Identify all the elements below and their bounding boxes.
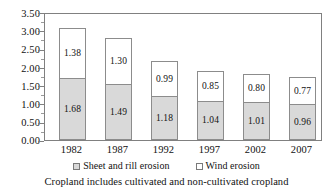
- bar-1992[interactable]: 0.99 1.18: [151, 61, 178, 140]
- erosion-stacked-bar-chart: 3.50 3.00 2.50 2.00 1.50 1.00 0.50 0.00 …: [0, 0, 333, 194]
- bar-value-label: 1.49: [110, 108, 127, 117]
- bar-segment-wind-erosion[interactable]: 1.30: [105, 38, 132, 85]
- bar-segment-sheet-and-rill-erosion[interactable]: 1.04: [197, 101, 224, 140]
- y-tick-label: 0.00: [0, 136, 40, 146]
- bar-1987[interactable]: 1.30 1.49: [105, 38, 132, 140]
- bar-segment-wind-erosion[interactable]: 0.99: [151, 61, 178, 97]
- bar-segment-sheet-and-rill-erosion[interactable]: 1.49: [105, 84, 132, 140]
- bar-value-label: 0.80: [248, 84, 265, 93]
- bar-value-label: 0.99: [156, 75, 173, 84]
- bar-segment-sheet-and-rill-erosion[interactable]: 1.18: [151, 96, 178, 140]
- bar-value-label: 0.77: [294, 87, 311, 96]
- bar-segment-sheet-and-rill-erosion[interactable]: 1.01: [243, 102, 270, 140]
- plot-area: 1.38 1.68 1.30 1.49 0.99 1.18 0.85: [44, 13, 322, 141]
- bar-segment-wind-erosion[interactable]: 0.85: [197, 71, 224, 102]
- legend-item-wind-erosion[interactable]: Wind erosion: [196, 161, 260, 171]
- bar-segment-wind-erosion[interactable]: 1.38: [59, 28, 86, 79]
- x-axis: 1982 1987 1992 1997 2002 2007: [44, 144, 322, 158]
- chart-footnote: Cropland includes cultivated and non-cul…: [0, 176, 333, 188]
- y-tick-label: 3.50: [0, 9, 40, 19]
- bar-segment-sheet-and-rill-erosion[interactable]: 1.68: [59, 78, 86, 140]
- x-tick-label-2007: 2007: [274, 144, 329, 155]
- y-tick-label: 0.50: [0, 118, 40, 128]
- bar-1997[interactable]: 0.85 1.04: [197, 71, 224, 140]
- y-tick-mark: [38, 141, 44, 142]
- bar-segment-wind-erosion[interactable]: 0.80: [243, 74, 270, 103]
- bar-2002[interactable]: 0.80 1.01: [243, 74, 270, 140]
- y-tick-label: 3.00: [0, 27, 40, 37]
- legend-swatch-icon: [196, 163, 203, 170]
- bar-value-label: 1.30: [110, 57, 127, 66]
- chart-legend: Sheet and rill erosion Wind erosion: [0, 161, 333, 171]
- bar-value-label: 0.96: [294, 118, 311, 127]
- bar-1982[interactable]: 1.38 1.68: [59, 28, 86, 140]
- bar-value-label: 1.01: [248, 117, 265, 126]
- bar-value-label: 0.85: [202, 82, 219, 91]
- y-tick-label: 1.00: [0, 100, 40, 110]
- y-tick-label: 2.00: [0, 64, 40, 74]
- bar-segment-wind-erosion[interactable]: 0.77: [289, 77, 316, 105]
- legend-swatch-icon: [73, 163, 80, 170]
- bar-segment-sheet-and-rill-erosion[interactable]: 0.96: [289, 104, 316, 140]
- bar-value-label: 1.38: [64, 49, 81, 58]
- y-tick-label: 1.50: [0, 82, 40, 92]
- bar-value-label: 1.04: [202, 116, 219, 125]
- legend-item-sheet-and-rill-erosion[interactable]: Sheet and rill erosion: [73, 161, 169, 171]
- bar-2007[interactable]: 0.77 0.96: [289, 77, 316, 140]
- bar-value-label: 1.18: [156, 114, 173, 123]
- y-tick-label: 2.50: [0, 45, 40, 55]
- legend-label: Sheet and rill erosion: [83, 161, 169, 171]
- legend-label: Wind erosion: [206, 161, 260, 171]
- bar-value-label: 1.68: [64, 105, 81, 114]
